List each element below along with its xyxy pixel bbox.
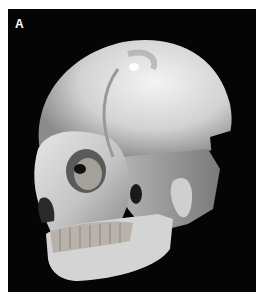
figure-panel: A — [8, 9, 256, 292]
panel-label: A — [15, 18, 24, 30]
skull-rendering — [8, 9, 256, 292]
